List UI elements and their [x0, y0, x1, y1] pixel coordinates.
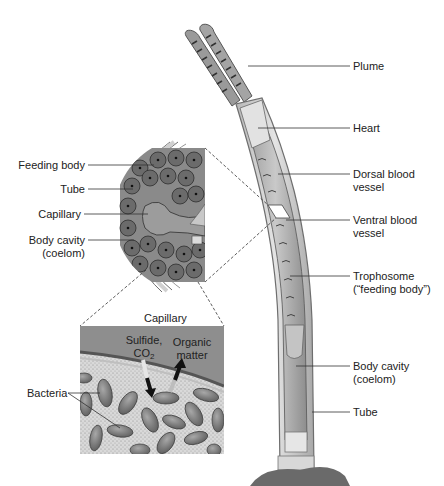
label-text: Capillary: [38, 208, 81, 220]
label-text: Body cavity: [29, 234, 85, 247]
label-text: CO: [134, 347, 151, 359]
label-text: Trophosome: [353, 270, 431, 283]
label-text: Bacteria: [27, 387, 67, 399]
label-text: Capillary: [144, 312, 187, 324]
label-text: (“feeding body”): [353, 283, 431, 296]
label-dorsal-blood-vessel: Dorsal blood vessel: [353, 168, 415, 194]
label-text: vessel: [353, 227, 417, 240]
label-organic-matter: Organic matter: [172, 336, 212, 362]
label-text: (coelom): [353, 373, 409, 386]
inset-title-capillary: Capillary: [144, 312, 187, 325]
label-text: Tube: [60, 183, 85, 195]
label-sulfide-co2: Sulfide, CO2: [124, 334, 164, 363]
label-text: matter: [172, 349, 212, 362]
label-ventral-blood-vessel: Ventral blood vessel: [353, 214, 417, 240]
label-text: Body cavity: [353, 360, 409, 373]
label-trophosome: Trophosome (“feeding body”): [353, 270, 431, 296]
label-capillary: Capillary: [38, 208, 81, 221]
label-subscript: 2: [150, 352, 154, 361]
worm-tube-illustration: [236, 98, 350, 486]
label-feeding-body: Feeding body: [18, 159, 85, 172]
label-text: (coelom): [29, 247, 85, 260]
plume-illustration: [185, 24, 252, 106]
label-heart: Heart: [353, 122, 380, 135]
label-tube: Tube: [353, 406, 378, 419]
label-text: Organic: [172, 336, 212, 349]
label-text: vessel: [353, 181, 415, 194]
label-plume: Plume: [353, 60, 384, 73]
label-body-cavity: Body cavity (coelom): [353, 360, 409, 386]
label-body-cavity-cross: Body cavity (coelom): [29, 234, 85, 260]
label-text: Plume: [353, 60, 384, 72]
label-text: Dorsal blood: [353, 168, 415, 181]
label-tube-cross: Tube: [60, 183, 85, 196]
label-text: Ventral blood: [353, 214, 417, 227]
diagram-stage: Plume Heart Dorsal blood vessel Ventral …: [0, 0, 444, 486]
label-text: Heart: [353, 122, 380, 134]
label-text: Feeding body: [18, 159, 85, 171]
cross-section-illustration: [120, 142, 210, 292]
label-bacteria: Bacteria: [27, 387, 67, 400]
label-text: Sulfide,: [124, 334, 164, 347]
label-text: Tube: [353, 406, 378, 418]
